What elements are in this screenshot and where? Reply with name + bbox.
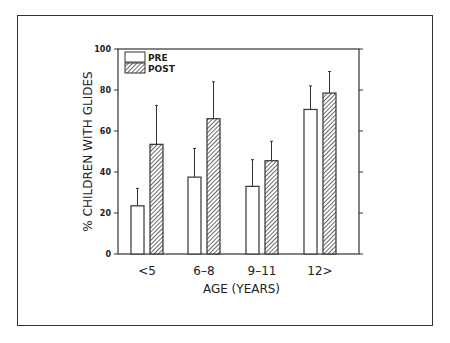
bar-post [265, 161, 278, 254]
x-category-label: <5 [138, 264, 156, 278]
legend-swatch-post [125, 63, 145, 73]
x-axis-label: AGE (YEARS) [203, 282, 280, 296]
y-axis-label: % CHILDREN WITH GLIDES [81, 71, 95, 231]
bar-pre [188, 177, 201, 254]
bar-post [150, 144, 163, 254]
y-tick-label: 100 [94, 45, 111, 54]
bar-pre [304, 109, 317, 254]
legend-label-pre: PRE [148, 53, 168, 63]
x-category-label: 6–8 [193, 264, 214, 278]
y-tick-label: 40 [100, 168, 112, 177]
y-tick-label: 80 [100, 86, 112, 95]
y-tick-label: 20 [100, 209, 112, 218]
legend-swatch-pre [125, 52, 145, 62]
bar-post [323, 93, 336, 254]
bar-pre [131, 206, 144, 254]
x-category-label: 12> [307, 264, 332, 278]
legend-label-post: POST [148, 64, 176, 74]
x-category-label: 9–11 [248, 264, 277, 278]
y-tick-label: 60 [100, 127, 112, 136]
y-tick-label: 0 [105, 250, 111, 259]
bar-chart: 020406080100<56–89–1112>AGE (YEARS)% CHI… [0, 0, 450, 343]
bar-pre [246, 186, 259, 254]
bar-post [207, 119, 220, 254]
